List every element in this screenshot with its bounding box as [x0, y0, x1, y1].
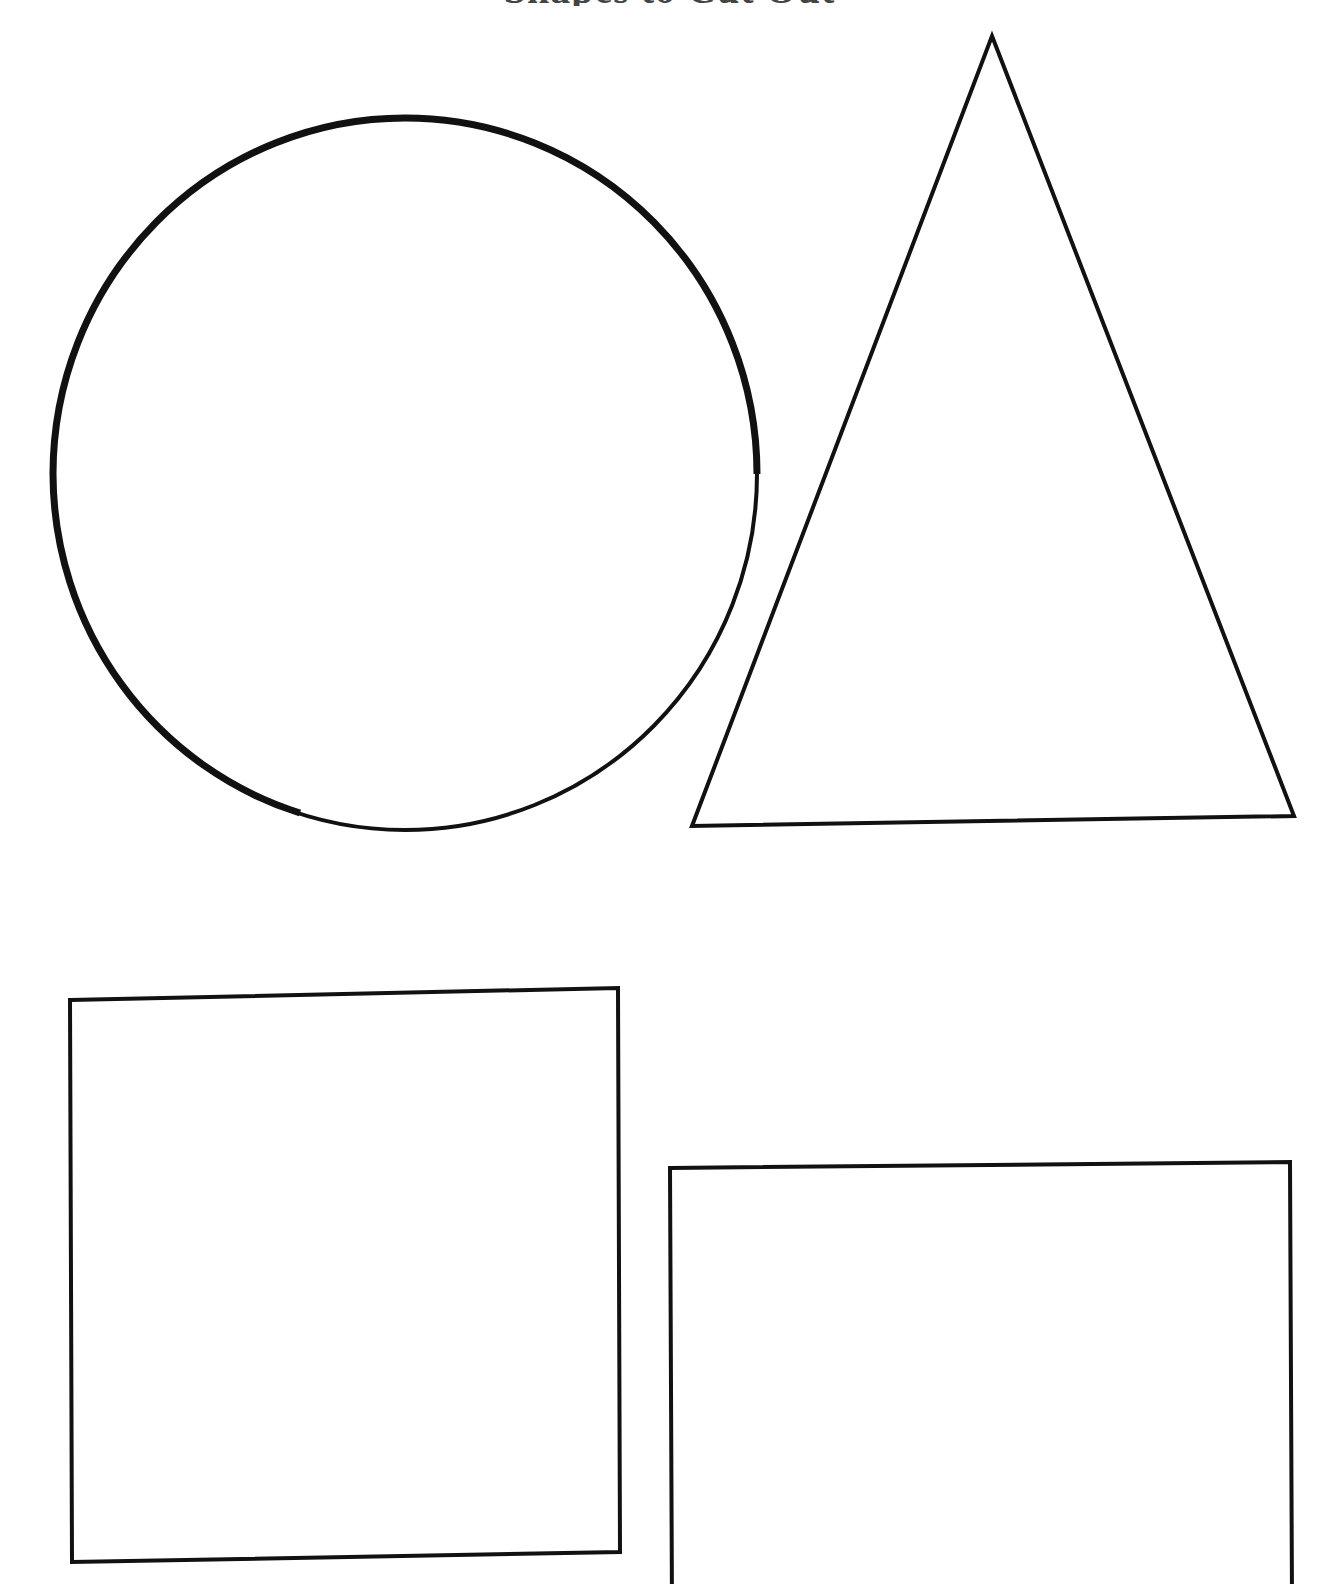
shape-circle [53, 118, 757, 830]
worksheet-page: Shapes to Cut Out [0, 0, 1339, 1584]
shape-square-right [670, 1162, 1292, 1584]
shape-triangle [692, 36, 1294, 826]
shapes-canvas [0, 0, 1339, 1584]
square-icon [70, 988, 620, 1562]
square-icon [670, 1162, 1292, 1584]
triangle-icon [692, 36, 1294, 826]
shape-square-left [70, 988, 620, 1562]
circle-heavy-arc [53, 118, 757, 813]
